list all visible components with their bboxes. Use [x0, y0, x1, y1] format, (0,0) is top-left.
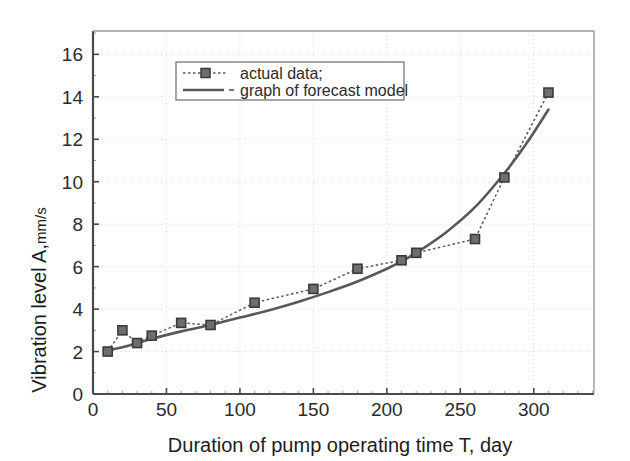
x-tick-label: 100: [224, 399, 256, 420]
y-tick-label: 4: [72, 299, 83, 320]
y-axis-title: Vibration level A, mm/s: [28, 207, 50, 392]
y-tick-label: 6: [72, 257, 83, 278]
x-tick-label: 50: [156, 399, 177, 420]
x-tick-label: 300: [518, 399, 550, 420]
legend-marker-square: [201, 69, 210, 78]
y-axis-title-main: Vibration level A,: [28, 244, 50, 393]
x-tick-label: 150: [298, 399, 330, 420]
y-tick-label: 14: [62, 87, 84, 108]
x-tick-label: 200: [371, 399, 403, 420]
y-tick-label: 2: [72, 342, 83, 363]
y-tick-label: 12: [62, 129, 83, 150]
legend-label: graph of forecast model: [240, 82, 408, 99]
y-axis-title-unit: mm/s: [32, 207, 49, 244]
y-tick-label: 0: [72, 384, 83, 405]
vibration-forecast-chart: 0501001502002503000246810121416 Vibratio…: [0, 0, 630, 461]
chart-legend: actual data;graph of forecast model: [176, 62, 408, 100]
x-tick-label: 0: [88, 399, 99, 420]
chart-figure: 0501001502002503000246810121416 Vibratio…: [0, 0, 630, 461]
x-axis-title: Duration of pump operating time T, day: [168, 434, 512, 456]
x-tick-label: 250: [444, 399, 476, 420]
y-tick-label: 10: [62, 172, 83, 193]
y-tick-label: 16: [62, 44, 83, 65]
legend-label: actual data;: [240, 65, 323, 82]
y-tick-label: 8: [72, 214, 83, 235]
